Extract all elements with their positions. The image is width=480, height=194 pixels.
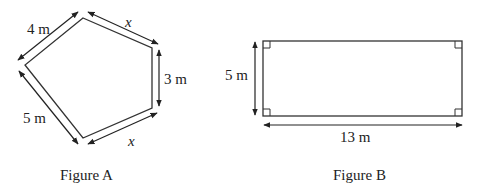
label-13m-width: 13 m <box>340 129 371 145</box>
figure-a: 4 m x 3 m x 5 m Figure A <box>18 12 187 183</box>
arrow-5m <box>19 71 78 144</box>
label-5m: 5 m <box>23 110 46 126</box>
label-3m: 3 m <box>164 71 187 87</box>
figure-b: 5 m 13 m Figure B <box>225 41 462 183</box>
caption-figure-a: Figure A <box>60 167 113 183</box>
label-x-bottom: x <box>127 133 135 149</box>
label-x-top: x <box>124 14 132 30</box>
label-4m: 4 m <box>27 21 50 37</box>
figures-canvas: 4 m x 3 m x 5 m Figure A 5 m 13 m Figure… <box>0 0 480 194</box>
caption-figure-b: Figure B <box>333 167 386 183</box>
right-angle-marks <box>263 41 462 116</box>
arrow-x-top <box>88 12 158 44</box>
arrow-x-bottom <box>88 113 157 144</box>
label-5m-height: 5 m <box>225 67 248 83</box>
rectangle-shape <box>263 41 462 116</box>
